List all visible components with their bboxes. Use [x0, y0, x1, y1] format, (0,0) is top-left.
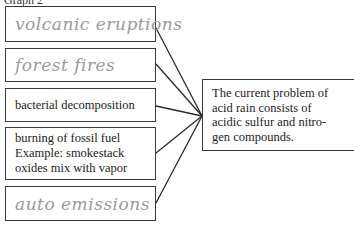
- cause-box-volcanic-eruptions: volcanic eruptions: [5, 6, 156, 42]
- connector-auto: [156, 116, 202, 203]
- cause-box-fossil-fuel: burning of fossil fuel Example: smokesta…: [5, 127, 156, 180]
- cause-line: oxides mix with vapor: [15, 161, 127, 176]
- cause-box-bacterial-decomposition: bacterial decomposition: [5, 88, 156, 122]
- cause-line: Example: smokestack: [15, 146, 127, 161]
- cause-box-auto-emissions: auto emissions: [5, 186, 156, 221]
- cause-line: burning of fossil fuel: [15, 131, 127, 146]
- cause-text: forest fires: [6, 55, 115, 75]
- cause-text: bacterial decomposition: [6, 98, 135, 113]
- connector-fossil: [156, 116, 202, 153]
- effect-line: The current problem of: [212, 86, 350, 101]
- effect-line: acidic sulfur and nitro-: [212, 115, 350, 130]
- effect-box-acid-rain: The current problem of acid rain consist…: [202, 79, 354, 151]
- effect-line: gen compounds.: [212, 130, 350, 145]
- cause-box-forest-fires: forest fires: [5, 48, 156, 82]
- cause-text: auto emissions: [6, 194, 150, 214]
- cause-text-block: burning of fossil fuel Example: smokesta…: [6, 131, 127, 176]
- cause-text: volcanic eruptions: [6, 14, 182, 34]
- effect-line: acid rain consists of: [212, 101, 350, 116]
